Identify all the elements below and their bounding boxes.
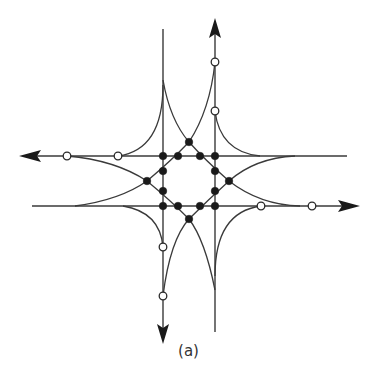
conflict-point xyxy=(225,177,233,185)
conflict-points xyxy=(143,138,233,223)
merge-point xyxy=(63,152,71,160)
conflict-point xyxy=(211,187,219,195)
ramp-bottom-right xyxy=(215,206,261,276)
ramp-north-to-center xyxy=(163,80,300,206)
conflict-point xyxy=(159,202,167,210)
merge-point xyxy=(211,58,219,66)
merge-diverge-points xyxy=(63,58,316,300)
merge-point xyxy=(159,292,167,300)
conflict-point xyxy=(196,152,204,160)
ramp-bottom-left xyxy=(123,206,163,247)
ramp-top-left xyxy=(118,85,163,156)
conflict-point xyxy=(159,167,167,175)
conflict-point xyxy=(185,215,193,223)
merge-point xyxy=(114,152,122,160)
merge-point xyxy=(211,107,219,115)
conflict-point xyxy=(185,138,193,146)
conflict-point xyxy=(143,177,151,185)
conflict-point xyxy=(211,152,219,160)
conflict-point xyxy=(196,202,204,210)
conflict-point xyxy=(159,187,167,195)
figure-caption: (a) xyxy=(0,342,377,360)
conflict-point xyxy=(159,152,167,160)
conflict-point xyxy=(211,167,219,175)
merge-point xyxy=(159,243,167,251)
conflict-point xyxy=(211,202,219,210)
conflict-point xyxy=(174,202,182,210)
conflict-point xyxy=(174,152,182,160)
ramp-top-right xyxy=(215,111,260,156)
merge-point xyxy=(308,202,316,210)
merge-point xyxy=(257,202,265,210)
interchange-conflict-diagram xyxy=(0,0,377,389)
ramp-west-to-center xyxy=(67,156,215,290)
